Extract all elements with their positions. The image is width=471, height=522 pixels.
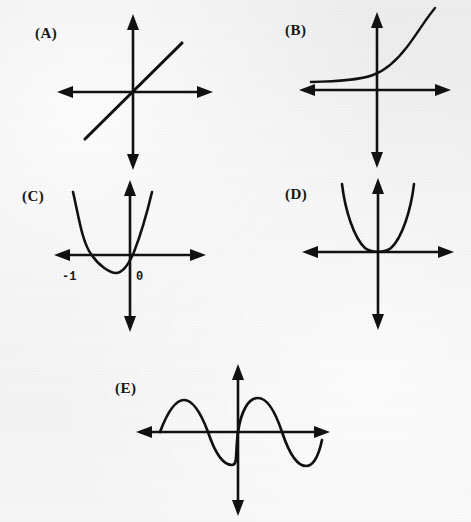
graph-panel-b — [297, 8, 462, 170]
graph-panel-d — [300, 178, 465, 340]
choice-label-c: (C) — [22, 188, 44, 205]
x-axis-b — [299, 84, 451, 96]
graph-panel-e — [128, 368, 348, 518]
curve-c-parabola — [73, 192, 152, 273]
x-tick-label-minus-one: -1 — [62, 270, 76, 284]
graph-panel-c: -1 0 — [52, 180, 217, 342]
y-axis-d — [372, 178, 384, 330]
graph-panel-a — [55, 10, 215, 170]
figure-page: (A) (B) — [0, 0, 471, 522]
x-tick-label-zero: 0 — [136, 270, 143, 284]
curve-b-exponential — [311, 8, 435, 82]
x-axis-e — [136, 426, 330, 438]
choice-label-a: (A) — [35, 25, 57, 42]
